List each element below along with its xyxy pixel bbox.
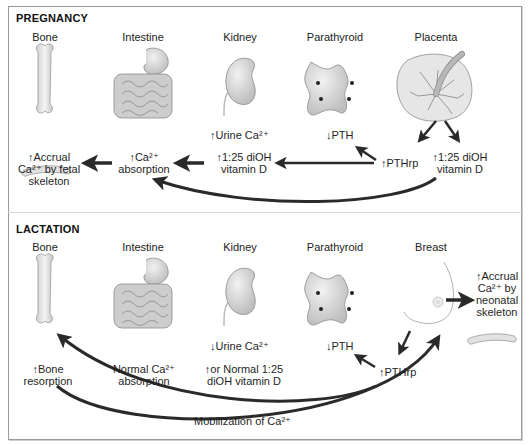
mobilization-label: Mobilization of Ca²⁺ <box>194 415 291 427</box>
organ-label-breast: Breast <box>386 241 476 253</box>
arrow-placenta-to-pthrp <box>420 121 436 140</box>
parathyroid-icon-pregnancy <box>305 62 354 115</box>
neonatal-accrual-label: ↑Accrual Ca²⁺ by neonatal skeleton <box>470 270 524 318</box>
vitd-label: ↑or Normal 1:25 diOH vitamin D <box>200 363 288 387</box>
arrow-breast-to-pthrp <box>400 331 410 352</box>
pth-label: ↓PTH <box>326 340 354 352</box>
arrow-pthrp-to-pth <box>358 148 376 160</box>
arrow-placenta-to-vitd <box>445 121 458 140</box>
placenta-icon-pregnancy <box>397 54 472 121</box>
organ-label-placenta: Placenta <box>391 31 481 43</box>
organ-label-parathyroid: Parathyroid <box>290 31 380 43</box>
section-title-pregnancy: PREGNANCY <box>16 12 88 24</box>
organ-label-kidney: Kidney <box>195 31 285 43</box>
vitd-placenta-label: ↑1:25 diOH vitamin D <box>428 151 492 175</box>
kidney-icon-pregnancy <box>224 58 255 116</box>
pthrp-label: ↑PTHrp <box>379 366 416 378</box>
section-title-lactation: LACTATION <box>16 223 80 235</box>
intestine-icon-pregnancy <box>114 48 172 118</box>
intestine-icon-lactation <box>114 258 172 328</box>
ca-absorption-label: ↑Ca²⁺ absorption <box>113 151 175 175</box>
vitd-kidney-label: ↑1:25 diOH vitamin D <box>212 151 276 175</box>
urine-ca-label: ↑Urine Ca²⁺ <box>210 129 269 141</box>
organ-label-intestine: Intestine <box>98 31 188 43</box>
parathyroid-icon-lactation <box>305 272 354 325</box>
organ-label-bone: Bone <box>0 31 90 43</box>
organ-label-kidney: Kidney <box>195 241 285 253</box>
organ-label-bone: Bone <box>0 241 90 253</box>
arrow-pthrp-to-pth <box>357 356 375 367</box>
fetal-accrual-label: ↑Accrual Ca²⁺ by fetal skeleton <box>14 151 84 187</box>
breast-icon-lactation <box>404 262 454 323</box>
pthrp-label: ↑PTHrp <box>381 157 418 169</box>
organ-label-parathyroid: Parathyroid <box>290 241 380 253</box>
kidney-icon-lactation <box>224 268 255 326</box>
pth-label: ↓PTH <box>326 129 354 141</box>
bone-icon-lactation <box>36 254 53 323</box>
organ-label-intestine: Intestine <box>98 241 188 253</box>
arrow-placenta-vitd-to-absorption <box>156 178 436 202</box>
ca-absorption-label: Normal Ca²⁺ absorption <box>108 363 180 387</box>
urine-ca-label: ↓Urine Ca²⁺ <box>210 340 269 352</box>
bone-icon-pregnancy <box>36 44 53 113</box>
bone-resorption-label: ↑Bone resorption <box>18 363 78 387</box>
neonatal-bone-icon <box>468 334 516 344</box>
